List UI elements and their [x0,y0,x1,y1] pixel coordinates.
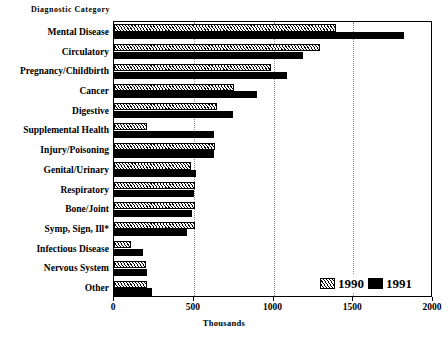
plot-area: Mental DiseaseCirculatoryPregnancy/Child… [113,21,432,297]
x-tick-1500 [352,297,353,301]
y-axis-title: Diagnostic Category [31,5,110,14]
diagnostic-category-bar-chart: Diagnostic Category Mental DiseaseCircul… [0,0,448,343]
bar-1991 [114,72,287,79]
bar-1990 [114,162,191,169]
category-label: Bone/Joint [65,204,109,214]
bar-1991 [114,52,303,59]
x-tick-label-2000: 2000 [423,302,442,312]
category-row: Pregnancy/Childbirth [114,61,431,81]
bar-1991 [114,150,214,157]
category-label: Genital/Urinary [44,165,109,175]
x-axis-title: Thousands [0,318,448,328]
category-row: Symp, Sign, Ill* [114,219,431,239]
bar-1990 [114,64,271,71]
category-row: Genital/Urinary [114,160,431,180]
category-label: Nervous System [44,263,109,273]
legend-item-1991: 1991 [368,277,412,290]
category-label: Circulatory [62,47,109,57]
bar-1990 [114,84,234,91]
bar-1990 [114,261,146,268]
bar-1990 [114,281,147,288]
category-row: Injury/Poisoning [114,140,431,160]
legend-label-1990: 1990 [338,277,364,290]
category-row: Respiratory [114,180,431,200]
category-label: Other [85,283,109,293]
category-label: Supplemental Health [23,125,109,135]
category-row: Mental Disease [114,22,431,42]
bar-1991 [114,210,192,217]
bar-1990 [114,182,195,189]
bar-1991 [114,269,147,276]
category-label: Respiratory [60,185,109,195]
category-label: Symp, Sign, Ill* [45,224,109,234]
x-tick-label-500: 500 [186,302,200,312]
category-row: Infectious Disease [114,239,431,259]
solid-swatch-icon [368,278,383,289]
bar-1990 [114,143,215,150]
category-row: Bone/Joint [114,199,431,219]
bar-1990 [114,103,217,110]
x-tick-label-1000: 1000 [263,302,282,312]
bar-1991 [114,32,404,39]
x-tick-label-0: 0 [111,302,116,312]
category-label: Digestive [72,106,109,116]
bar-1991 [114,170,196,177]
plot-inner-surface: Mental DiseaseCirculatoryPregnancy/Child… [114,22,431,296]
x-tick-500 [193,297,194,301]
category-row: Circulatory [114,42,431,62]
bar-1990 [114,202,195,209]
bar-1991 [114,249,143,256]
category-label: Mental Disease [48,27,109,37]
bar-1991 [114,229,187,236]
category-label: Infectious Disease [36,244,109,254]
category-label: Cancer [79,86,109,96]
bar-1990 [114,123,147,130]
category-label: Pregnancy/Childbirth [20,66,109,76]
category-row: Supplemental Health [114,121,431,141]
x-tick-label-1500: 1500 [343,302,362,312]
bar-1991 [114,190,194,197]
legend-label-1991: 1991 [386,277,412,290]
category-row: Digestive [114,101,431,121]
bar-1990 [114,44,320,51]
x-tick-1000 [273,297,274,301]
bar-1990 [114,24,336,31]
x-tick-0 [113,297,114,301]
hatched-swatch-icon [320,278,335,289]
bar-1991 [114,131,214,138]
bar-1991 [114,111,233,118]
chart-legend: 1990 1991 [318,274,414,293]
legend-item-1990: 1990 [320,277,364,290]
bar-1990 [114,222,195,229]
bar-1990 [114,241,131,248]
category-label: Injury/Poisoning [40,145,109,155]
bar-1991 [114,288,152,295]
bar-1991 [114,91,257,98]
category-row: Cancer [114,81,431,101]
x-tick-2000 [432,297,433,301]
